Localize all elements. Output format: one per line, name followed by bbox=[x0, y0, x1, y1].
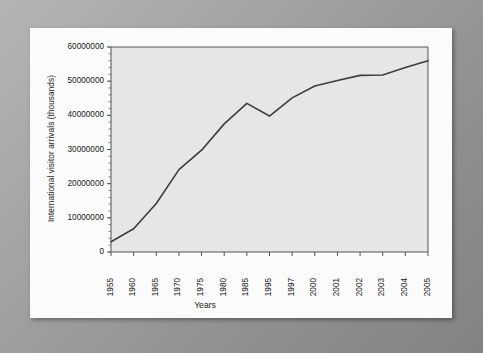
image-frame: International visitor arrivals (thousand… bbox=[0, 0, 483, 353]
x-axis-title: Years bbox=[30, 300, 380, 310]
y-axis-major-ticks bbox=[107, 47, 111, 252]
line-chart-svg bbox=[30, 28, 452, 318]
chart-panel: International visitor arrivals (thousand… bbox=[30, 28, 452, 318]
x-axis-major-ticks bbox=[111, 252, 428, 256]
plot-area-background bbox=[111, 47, 428, 252]
